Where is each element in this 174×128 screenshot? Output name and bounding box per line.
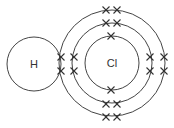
- hcl-dot-cross-diagram: H Cl: [0, 0, 174, 128]
- hydrogen-label: H: [30, 58, 38, 70]
- chlorine-label: Cl: [107, 57, 117, 69]
